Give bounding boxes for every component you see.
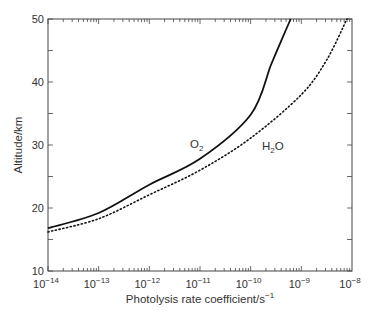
x-tick-label: 10−13 bbox=[84, 276, 110, 290]
photolysis-chart: 10−1410−1310−1210−1110−1010−910−81020304… bbox=[0, 0, 377, 317]
h2o-curve bbox=[48, 19, 347, 232]
o2-curve bbox=[48, 19, 291, 228]
y-tick-label: 50 bbox=[32, 13, 44, 25]
x-axis-label: Photolysis rate coefficient/s−1 bbox=[126, 291, 275, 305]
y-tick-label: 20 bbox=[32, 202, 44, 214]
y-tick-label: 40 bbox=[32, 76, 44, 88]
x-tick-label: 10−9 bbox=[289, 276, 311, 290]
h2o-label: H2O bbox=[262, 140, 284, 155]
y-tick-label: 10 bbox=[32, 265, 44, 277]
y-axis-label: Altitude/km bbox=[12, 117, 24, 174]
x-tick-label: 10−8 bbox=[339, 276, 361, 290]
y-tick-label: 30 bbox=[32, 139, 44, 151]
x-tick-label: 10−14 bbox=[33, 276, 59, 290]
x-tick-label: 10−12 bbox=[134, 276, 160, 290]
x-tick-label: 10−10 bbox=[236, 276, 262, 290]
x-tick-label: 10−11 bbox=[185, 276, 211, 290]
o2-label: O2 bbox=[190, 138, 204, 153]
